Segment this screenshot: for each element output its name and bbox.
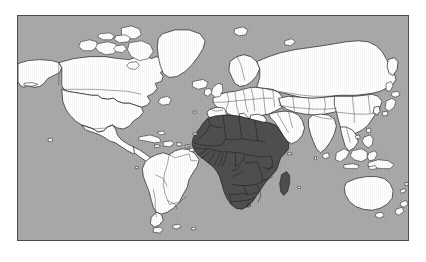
world-map-panel: .land { fill:#ffffff; stroke:#1a1a1a; st… (17, 15, 409, 241)
world-map-svg: .land { fill:#ffffff; stroke:#1a1a1a; st… (18, 16, 408, 240)
island-reunion-mauritius (298, 186, 301, 188)
island-hawaii (48, 138, 53, 142)
island-hainan (355, 135, 360, 139)
island-japan-kyushu (382, 111, 388, 116)
island-galapagos (135, 167, 138, 169)
island-puerto-rico (176, 143, 182, 146)
island-socotra (288, 153, 292, 155)
island-timor (368, 166, 377, 170)
island-maldives (314, 157, 316, 160)
island-canaries (193, 133, 197, 135)
island-taiwan (366, 128, 371, 133)
page-root: .land { fill:#ffffff; stroke:#1a1a1a; st… (0, 0, 426, 262)
island-azores (193, 111, 196, 113)
island-cape-verde (187, 145, 190, 147)
island-fiji (405, 183, 408, 186)
